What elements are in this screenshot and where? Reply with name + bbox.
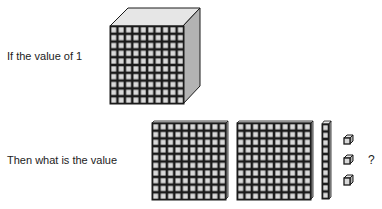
ten-rod	[322, 121, 331, 199]
unit-cube-3	[344, 175, 353, 185]
thousand-cube	[110, 8, 200, 104]
base-ten-blocks-diagram	[0, 0, 382, 209]
hundred-flat-2	[237, 121, 313, 200]
unit-cube-2	[344, 155, 353, 164]
hundred-flat-1	[152, 121, 228, 200]
unit-cube-1	[344, 135, 353, 144]
